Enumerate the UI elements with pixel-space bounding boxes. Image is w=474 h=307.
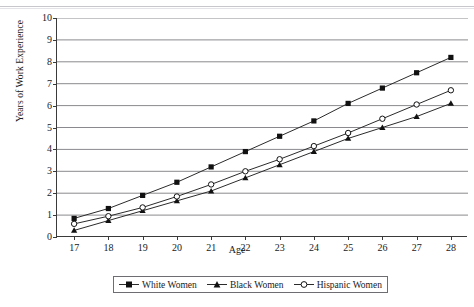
- data-point-square: [277, 134, 282, 139]
- x-tick-mark: [314, 236, 315, 240]
- x-tick-mark: [382, 236, 383, 240]
- data-point-circle: [311, 143, 316, 148]
- y-tick-label: 5: [47, 123, 52, 133]
- y-tick-label: 10: [42, 13, 52, 23]
- data-point-circle: [174, 194, 179, 199]
- legend-label: Black Women: [230, 280, 284, 290]
- y-tick-mark: [53, 18, 57, 19]
- data-point-square: [72, 216, 77, 221]
- legend-item-white-women[interactable]: White Women: [119, 280, 197, 290]
- y-tick-mark: [53, 128, 57, 129]
- series-line: [74, 90, 451, 224]
- series-line: [74, 57, 451, 218]
- legend-label: White Women: [142, 280, 197, 290]
- x-tick-mark: [211, 236, 212, 240]
- data-point-square: [311, 118, 316, 123]
- y-tick-mark: [53, 84, 57, 85]
- x-tick-mark: [280, 236, 281, 240]
- y-tick-mark: [53, 237, 57, 238]
- y-tick-mark: [53, 40, 57, 41]
- x-axis-title: Age: [0, 244, 474, 255]
- data-point-circle: [380, 116, 385, 121]
- y-tick-mark: [53, 149, 57, 150]
- data-point-square: [209, 164, 214, 169]
- data-point-square: [106, 206, 111, 211]
- data-point-circle: [71, 221, 76, 226]
- chart-legend: White Women Black Women Hispanic Women: [113, 276, 388, 293]
- series-line: [74, 103, 451, 230]
- data-point-triangle: [448, 100, 454, 106]
- y-tick-mark: [53, 193, 57, 194]
- data-point-square: [414, 70, 419, 75]
- filled-square-marker-icon: [119, 280, 139, 289]
- data-point-circle: [106, 213, 111, 218]
- x-tick-mark: [417, 236, 418, 240]
- y-tick-label: 8: [47, 57, 52, 67]
- data-point-square: [346, 101, 351, 106]
- data-point-circle: [140, 205, 145, 210]
- x-tick-mark: [108, 236, 109, 240]
- chart-page: 012345678910171819202122232425262728 Yea…: [0, 0, 474, 307]
- legend-item-hispanic-women[interactable]: Hispanic Women: [294, 280, 382, 290]
- y-tick-mark: [53, 62, 57, 63]
- data-point-square: [174, 180, 179, 185]
- filled-triangle-marker-icon: [207, 280, 227, 289]
- data-point-circle: [277, 157, 282, 162]
- data-point-circle: [414, 102, 419, 107]
- x-tick-mark: [143, 236, 144, 240]
- data-point-square: [380, 85, 385, 90]
- y-tick-label: 2: [47, 188, 52, 198]
- data-point-circle: [448, 88, 453, 93]
- x-tick-mark: [74, 236, 75, 240]
- y-tick-label: 1: [47, 210, 52, 220]
- x-tick-mark: [348, 236, 349, 240]
- data-point-circle: [243, 169, 248, 174]
- page-top-rule: [0, 6, 474, 7]
- y-tick-mark: [53, 215, 57, 216]
- data-point-circle: [345, 130, 350, 135]
- y-tick-label: 7: [47, 79, 52, 89]
- y-tick-mark: [53, 171, 57, 172]
- data-point-circle: [208, 182, 213, 187]
- plot-area: 012345678910171819202122232425262728: [56, 18, 467, 237]
- y-axis-title: Years of Work Experience: [15, 0, 25, 151]
- y-tick-label: 4: [47, 144, 52, 154]
- data-point-square: [243, 149, 248, 154]
- x-tick-mark: [451, 236, 452, 240]
- y-tick-label: 9: [47, 35, 52, 45]
- x-tick-mark: [177, 236, 178, 240]
- y-tick-label: 0: [47, 232, 52, 242]
- series-plot: [57, 18, 468, 237]
- data-point-square: [140, 193, 145, 198]
- y-tick-label: 6: [47, 101, 52, 111]
- x-tick-mark: [245, 236, 246, 240]
- legend-label: Hispanic Women: [317, 280, 382, 290]
- open-circle-marker-icon: [294, 280, 314, 289]
- y-tick-mark: [53, 106, 57, 107]
- data-point-square: [448, 55, 453, 60]
- page-top-rule-secondary: [0, 8, 474, 9]
- legend-item-black-women[interactable]: Black Women: [207, 280, 284, 290]
- y-tick-label: 3: [47, 166, 52, 176]
